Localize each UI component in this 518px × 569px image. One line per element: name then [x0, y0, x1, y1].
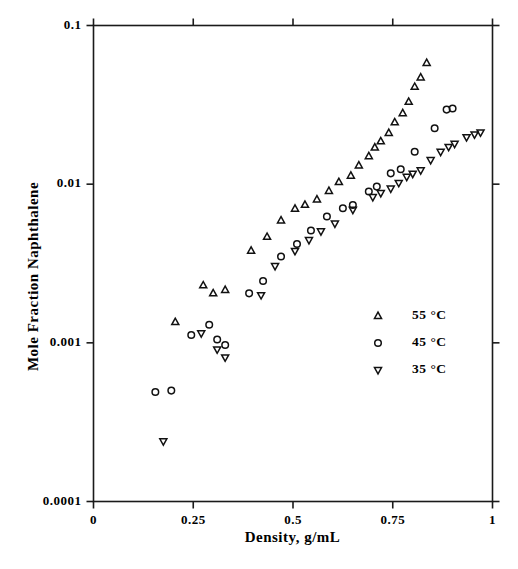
data-point: [260, 278, 267, 285]
data-point: [222, 286, 229, 292]
data-point: [377, 137, 384, 143]
data-point: [335, 178, 342, 184]
series-45-c: [152, 105, 456, 395]
data-point: [371, 144, 378, 150]
data-point: [278, 217, 285, 223]
data-point: [427, 158, 434, 164]
data-point: [214, 336, 221, 343]
data-point: [246, 290, 253, 297]
x-tick-label: 1: [453, 512, 518, 528]
data-point: [248, 247, 255, 253]
data-point: [152, 389, 159, 396]
data-point: [471, 132, 478, 138]
data-point: [463, 135, 470, 141]
data-point: [278, 253, 285, 260]
data-point: [387, 186, 394, 192]
data-point: [313, 196, 320, 202]
data-point: [377, 191, 384, 197]
data-point: [308, 227, 315, 234]
axis-ticks: [87, 19, 500, 509]
x-tick-label: 0.25: [153, 512, 233, 528]
data-point: [317, 229, 324, 235]
data-point: [477, 130, 484, 136]
data-point: [366, 188, 373, 195]
x-tick-label: 0.75: [353, 512, 433, 528]
series-35-c: [160, 130, 484, 445]
data-point: [347, 172, 354, 178]
data-point: [391, 118, 398, 124]
data-point: [168, 387, 175, 394]
data-point: [264, 233, 271, 239]
data-point: [437, 149, 444, 155]
data-point: [399, 109, 406, 115]
data-point: [160, 439, 167, 445]
scatter-plot-canvas: [0, 0, 518, 569]
data-points: [152, 59, 484, 445]
legend-marker-1: [375, 340, 382, 347]
data-point: [325, 187, 332, 193]
data-point: [374, 183, 381, 190]
data-point: [355, 162, 362, 168]
data-point: [431, 125, 438, 132]
data-point: [405, 98, 412, 104]
data-point: [258, 293, 265, 299]
data-point: [188, 332, 195, 339]
data-point: [365, 152, 372, 158]
legend-label: 55 °C: [412, 307, 447, 323]
data-point: [385, 129, 392, 135]
data-point: [200, 281, 207, 287]
data-point: [291, 205, 298, 211]
data-point: [369, 195, 376, 201]
data-point: [294, 241, 301, 248]
data-point: [301, 201, 308, 207]
data-point: [331, 221, 338, 227]
data-point: [417, 168, 424, 174]
x-tick-label: 0: [54, 512, 134, 528]
data-point: [291, 248, 298, 254]
plot-frame: [94, 26, 493, 502]
legend-label: 35 °C: [412, 361, 447, 377]
data-point: [409, 171, 416, 177]
data-point: [272, 264, 279, 270]
axes-frame: [94, 26, 493, 502]
data-point: [172, 318, 179, 324]
data-point: [222, 355, 229, 361]
y-tick-label: 0.01: [0, 175, 82, 191]
data-point: [222, 342, 229, 349]
legend-label: 45 °C: [412, 334, 447, 350]
x-axis-title: Density, g/mL: [93, 529, 492, 546]
data-point: [397, 166, 404, 173]
data-point: [198, 331, 205, 337]
x-tick-label: 0.5: [253, 512, 333, 528]
data-point: [206, 321, 213, 328]
legend-marker-2: [374, 368, 381, 374]
legend-marker-0: [374, 312, 381, 318]
data-point: [305, 238, 312, 244]
data-point: [411, 148, 418, 155]
y-tick-label: 0.0001: [0, 493, 82, 509]
legend-markers: [374, 312, 381, 374]
data-point: [411, 83, 418, 89]
chart-figure: Mole Fraction Naphthalene Density, g/mL …: [0, 0, 518, 569]
data-point: [403, 174, 410, 180]
data-point: [451, 141, 458, 147]
data-point: [214, 347, 221, 353]
data-point: [210, 289, 217, 295]
data-point: [395, 180, 402, 186]
data-point: [324, 213, 331, 220]
data-point: [445, 144, 452, 150]
y-tick-label: 0.1: [0, 17, 82, 33]
y-tick-label: 0.001: [0, 334, 82, 350]
data-point: [340, 205, 347, 212]
data-point: [417, 74, 424, 80]
data-point: [423, 59, 430, 65]
data-point: [387, 170, 394, 177]
